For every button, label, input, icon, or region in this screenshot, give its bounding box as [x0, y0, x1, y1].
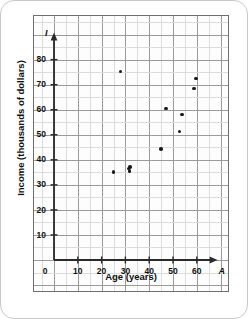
data-point — [192, 87, 196, 91]
y-tick-label: 40 — [37, 155, 46, 164]
data-point — [159, 147, 163, 151]
data-point — [128, 165, 132, 169]
data-point — [112, 170, 116, 174]
y-tick-label: 30 — [37, 180, 46, 189]
y-tick-label: 20 — [37, 206, 46, 215]
plot-frame: 10203040506070801020304050600IA — [33, 15, 229, 292]
data-point — [180, 113, 184, 117]
chart-card: 10203040506070801020304050600IA Income (… — [0, 0, 248, 319]
x-axis-title: Age (years) — [33, 271, 229, 282]
y-axis-letter: I — [45, 29, 48, 38]
y-axis-title: Income (thousands of dollars) — [15, 23, 26, 233]
y-tick-label: 70 — [37, 80, 46, 89]
y-axis-title-wrapper: Income (thousands of dollars) — [15, 233, 225, 244]
data-point — [194, 77, 198, 81]
y-tick-label: 60 — [37, 105, 46, 114]
y-tick-label: 80 — [37, 55, 46, 64]
y-tick-label: 50 — [37, 130, 46, 139]
axes-layer — [34, 16, 229, 292]
